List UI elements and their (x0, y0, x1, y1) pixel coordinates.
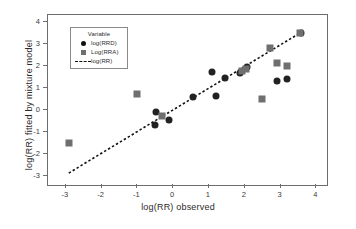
y-axis-tick (43, 65, 47, 66)
y-axis-tick-label: 0 (36, 104, 40, 113)
x-axis-tick (315, 184, 316, 188)
y-axis-tick-label: 4 (36, 16, 40, 25)
y-axis-tick-label: -3 (33, 171, 40, 180)
y-axis-tick (43, 87, 47, 88)
data-point (208, 68, 215, 75)
x-axis-tick-label: 1 (206, 190, 210, 199)
legend: Variable log(RRD)Log(RRA)log(RR) (70, 27, 128, 69)
x-axis-tick-label: 4 (313, 190, 317, 199)
data-point (258, 95, 265, 102)
y-axis-tick (43, 131, 47, 132)
x-axis-tick (244, 184, 245, 188)
y-axis-tick (43, 21, 47, 22)
legend-key-glyph (75, 61, 91, 62)
y-axis-tick-label: 1 (36, 82, 40, 91)
y-axis-tick (43, 109, 47, 110)
data-point (297, 29, 304, 36)
legend-entries: log(RRD)Log(RRA)log(RR) (75, 39, 123, 65)
x-axis-tick (136, 184, 137, 188)
x-axis-tick-label: 2 (242, 190, 246, 199)
data-point (159, 113, 166, 120)
x-axis-tick (280, 184, 281, 188)
data-point (284, 63, 291, 70)
x-axis-tick (172, 184, 173, 188)
data-point (273, 59, 280, 66)
data-point (267, 44, 274, 51)
legend-title: Variable (75, 31, 123, 37)
legend-entry: log(RR) (75, 57, 123, 65)
x-axis-tick-label: -2 (97, 190, 104, 199)
legend-entry: Log(RRA) (75, 48, 123, 56)
legend-entry-label: log(RR) (91, 58, 112, 64)
data-point (213, 92, 220, 99)
legend-entry-label: Log(RRA) (91, 49, 118, 55)
data-point (151, 121, 158, 128)
legend-square-marker-icon (75, 50, 91, 55)
legend-key-glyph (81, 50, 86, 55)
x-axis-tick-label: -3 (62, 190, 69, 199)
data-point (134, 91, 141, 98)
y-axis-tick (43, 153, 47, 154)
y-axis-tick (43, 175, 47, 176)
data-point (189, 94, 196, 101)
y-axis-tick (43, 43, 47, 44)
data-point (243, 66, 250, 73)
legend-entry: log(RRD) (75, 39, 123, 47)
x-axis-tick-label: 3 (277, 190, 281, 199)
y-axis-tick-label: 3 (36, 38, 40, 47)
legend-entry-label: log(RRD) (91, 40, 117, 46)
y-axis-title: log(RR) fitted by mixture model (24, 15, 34, 195)
data-point (165, 116, 172, 123)
data-point (273, 78, 280, 85)
x-axis-tick-label: -1 (133, 190, 140, 199)
x-axis-tick (65, 184, 66, 188)
data-point (222, 74, 229, 81)
legend-circle-marker-icon (75, 41, 91, 46)
data-point (66, 140, 73, 147)
data-point (284, 76, 291, 83)
x-axis-tick-label: 0 (170, 190, 174, 199)
legend-dashed-line-icon (75, 61, 91, 62)
x-axis-tick (208, 184, 209, 188)
y-axis-tick-label: -1 (33, 127, 40, 136)
scatter-plot-figure: log(RR) fitted by mixture model log(RR) … (0, 0, 356, 229)
y-axis-tick-label: 2 (36, 60, 40, 69)
y-axis-tick-label: -2 (33, 149, 40, 158)
legend-key-glyph (81, 41, 86, 46)
x-axis-tick (101, 184, 102, 188)
x-axis-title: log(RR) observed (0, 202, 356, 212)
